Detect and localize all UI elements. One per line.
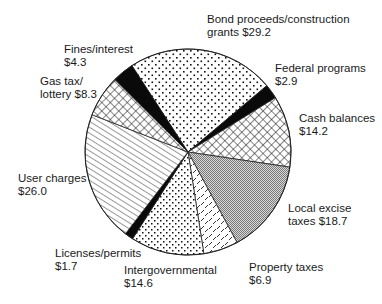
slice-label-line: Fines/interest xyxy=(64,43,133,56)
slice-label-bond-proceeds-construction-grants: Bond proceeds/constructiongrants $29.2 xyxy=(207,13,350,39)
slice-label-line: $26.0 xyxy=(18,185,86,198)
slice-label-user-charges: User charges$26.0 xyxy=(18,172,86,198)
slice-label-gas-tax-lottery: Gas tax/lottery $8.3 xyxy=(40,75,97,101)
slice-label-fines-interest: Fines/interest$4.3 xyxy=(64,43,133,69)
slice-label-line: Licenses/permits xyxy=(55,247,141,260)
slice-label-line: Cash balances xyxy=(299,112,375,125)
slice-label-licenses-permits: Licenses/permits$1.7 xyxy=(55,247,141,273)
slice-label-line: Bond proceeds/construction xyxy=(207,13,350,26)
slice-label-line: $14.2 xyxy=(299,125,375,138)
slice-label-property-taxes: Property taxes$6.9 xyxy=(249,261,323,287)
pie-slices xyxy=(85,49,291,255)
slice-label-line: Gas tax/ xyxy=(40,75,97,88)
slice-label-line: User charges xyxy=(18,172,86,185)
slice-label-line: lottery $8.3 xyxy=(40,88,97,101)
slice-label-cash-balances: Cash balances$14.2 xyxy=(299,112,375,138)
slice-label-line: $6.9 xyxy=(249,274,323,287)
slice-label-line: $14.6 xyxy=(124,277,217,290)
slice-label-line: Federal programs xyxy=(275,62,366,75)
slice-label-line: $4.3 xyxy=(64,56,133,69)
slice-label-line: Local excise xyxy=(288,202,351,215)
slice-label-federal-programs: Federal programs$2.9 xyxy=(275,62,366,88)
slice-label-local-excise-taxes: Local excisetaxes $18.7 xyxy=(288,202,351,228)
slice-label-line: Property taxes xyxy=(249,261,323,274)
slice-label-line: $2.9 xyxy=(275,75,366,88)
slice-label-line: $1.7 xyxy=(55,260,141,273)
slice-label-line: taxes $18.7 xyxy=(288,215,351,228)
slice-label-line: grants $29.2 xyxy=(207,26,350,39)
